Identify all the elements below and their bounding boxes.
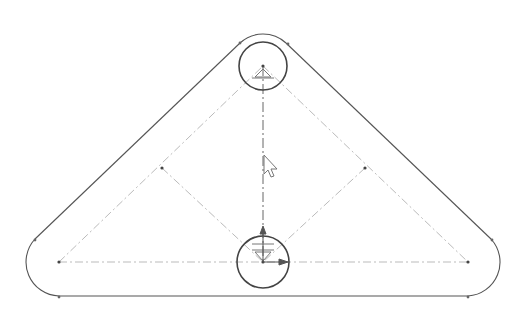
cursor-arrow-icon [264,155,277,177]
sketch-canvas[interactable] [0,0,529,309]
